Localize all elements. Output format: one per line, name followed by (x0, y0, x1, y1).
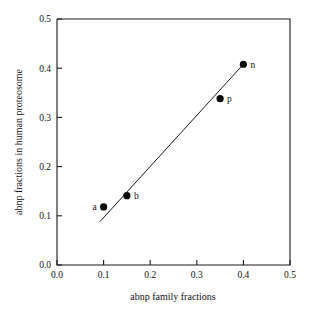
data-point-marker (100, 203, 107, 210)
data-point-marker (217, 95, 224, 102)
x-tick-label: 0.4 (237, 270, 249, 280)
y-tick-label: 0.5 (39, 14, 51, 24)
data-point-label: b (134, 191, 139, 201)
data-point-marker (123, 192, 130, 199)
y-tick-label: 0.2 (39, 162, 51, 172)
x-tick-label: 0.1 (98, 270, 110, 280)
x-tick-label: 0.2 (144, 270, 156, 280)
scatter-plot: 0.00.10.20.30.40.5 0.00.10.20.30.40.5 ab… (0, 0, 315, 318)
data-point-marker (240, 61, 247, 68)
y-tick-label: 0.4 (39, 64, 51, 74)
y-tick-label: 0.3 (39, 113, 51, 123)
chart-figure: 0.00.10.20.30.40.5 0.00.10.20.30.40.5 ab… (0, 0, 315, 318)
y-tick-label: 0.1 (39, 211, 51, 221)
x-tick-label: 0.0 (51, 270, 63, 280)
data-point-label: n (250, 60, 255, 70)
x-tick-label: 0.5 (284, 270, 296, 280)
y-tick-label: 0.0 (39, 260, 51, 270)
x-tick-label: 0.3 (191, 270, 203, 280)
x-axis-label: abnp family fractions (130, 291, 216, 302)
y-axis-label: abnp fractions in human proteosome (13, 68, 24, 215)
data-point-label: p (227, 94, 232, 104)
